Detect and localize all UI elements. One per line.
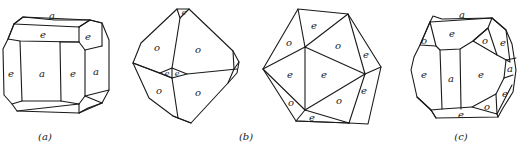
face-label: e (363, 49, 369, 60)
face-label: o (195, 87, 201, 98)
figure-caption-b: (b) (239, 131, 253, 142)
face-label: a (39, 68, 45, 79)
face-label: e (421, 69, 427, 80)
crystal-forms-figure: a e e e a e a (a) (0, 0, 517, 145)
face-label: o (336, 95, 342, 106)
face-label: e (40, 29, 46, 40)
crystal-b-edges (133, 9, 239, 123)
face-label: a (459, 9, 465, 20)
crystal-panel-b: e o o e e o o (b) (133, 8, 253, 143)
face-label: e (458, 109, 464, 120)
face-label: e (175, 69, 180, 78)
face-label: o (335, 40, 341, 51)
crystal-c-edges (411, 16, 516, 118)
face-label: e (449, 28, 455, 39)
face-label: a (93, 66, 99, 77)
figure-caption-c: (c) (454, 131, 468, 142)
face-label: o (195, 44, 201, 55)
crystal-panel-icosahedron: e o o e e e e o o e (263, 9, 381, 124)
face-label: o (286, 37, 292, 48)
face-label: o (154, 42, 160, 53)
face-label: o (482, 35, 488, 46)
face-label: o (484, 101, 490, 112)
face-label: a (448, 73, 454, 84)
face-label: e (287, 69, 293, 80)
face-label: e (85, 31, 91, 42)
face-label: e (309, 112, 315, 123)
face-label: o (288, 97, 294, 108)
crystal-icosa-edges (263, 9, 381, 124)
face-label: e (70, 68, 76, 79)
face-label: o (156, 85, 162, 96)
figure-caption-a: (a) (38, 131, 52, 142)
face-label: e (361, 85, 367, 96)
face-label: e (182, 8, 187, 17)
face-label: e (502, 88, 508, 99)
face-label: e (311, 20, 317, 31)
face-label: e (500, 37, 506, 48)
face-label: e (321, 69, 327, 80)
crystal-panel-c: a e o o e e a e a e o e (c) (411, 9, 516, 143)
face-label: e (8, 68, 14, 79)
face-label: e (478, 69, 484, 80)
face-label: o (421, 35, 427, 46)
face-label: e (165, 69, 170, 78)
crystal-panel-a: a e e e a e a (a) (3, 10, 109, 143)
face-label: a (49, 10, 55, 21)
face-label: a (507, 63, 513, 74)
